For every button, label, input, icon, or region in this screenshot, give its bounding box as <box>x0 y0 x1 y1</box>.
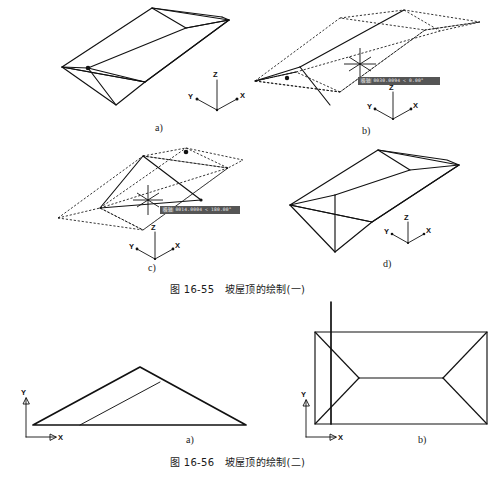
panel-d-label: d) <box>383 258 391 269</box>
panel-a-axis-x-label: X <box>240 91 245 100</box>
panel-a-axis-y-label: Y <box>188 92 193 101</box>
panel-2a-axes-icon: Y X <box>21 388 63 442</box>
panel-c-label: c) <box>148 262 156 273</box>
panel-b-axis-x-label: X <box>413 101 418 110</box>
panel-d-axes-icon: Z Y X <box>384 213 431 244</box>
panel-c-polar-tooltip: 极轴0014.0004 < 180.00° <box>160 206 240 214</box>
panel-2a-axis-x-label: X <box>58 433 63 442</box>
page-canvas: Z Y X <box>0 0 503 478</box>
panel-b-tooltip-tag: 极轴 <box>360 78 372 83</box>
panel-b-label: b) <box>362 125 370 136</box>
panel-2b-drawing: Y X <box>301 302 487 442</box>
panel-d-axis-z-label: Z <box>404 213 409 222</box>
panel-d-axis-y-label: Y <box>384 227 389 236</box>
figure-vector-layer: Z Y X <box>0 0 503 478</box>
panel-2b-label: b) <box>418 434 426 445</box>
panel-b-crosshair-cursor <box>344 48 376 80</box>
panel-2a-label: a) <box>186 434 194 445</box>
panel-a-label: a) <box>155 122 163 133</box>
panel-2a-axis-y-label: Y <box>21 388 26 397</box>
panel-b-polar-tooltip: 极轴0030.0094 < 0.00° <box>358 77 440 85</box>
panel-d-axis-x-label: X <box>426 226 431 235</box>
panel-c-axis-x-label: X <box>175 241 180 250</box>
panel-c-tooltip-text: 0014.0004 < 180.00° <box>175 207 231 212</box>
panel-2b-axis-x-label: X <box>338 433 343 442</box>
panel-c-vertex-dot-2 <box>199 198 202 201</box>
panel-d-drawing: Z Y X <box>290 150 459 252</box>
panel-c-vertex-dot <box>184 150 189 155</box>
panis-c-axis-y-label: Y <box>129 242 134 251</box>
panel-a-axis-z-label: Z <box>213 70 218 79</box>
panel-c-axis-z-label: Z <box>151 223 156 232</box>
panel-c-axes-icon: Z Y X <box>129 223 180 260</box>
panel-c-tooltip-tag: 极轴 <box>162 207 174 212</box>
panel-a-drawing: Z Y X <box>62 8 245 111</box>
panel-2a-drawing: Y X <box>21 367 246 442</box>
panel-2b-axis-y-label: Y <box>301 390 306 399</box>
panel-a-vertex-dot <box>86 66 91 71</box>
panel-c-drawing: Z Y X <box>58 148 243 260</box>
figure-16-55-caption: 图 16-55 坡屋顶的绘制(一) <box>170 281 305 296</box>
figure-16-56-caption: 图 16-56 坡屋顶的绘制(二) <box>170 454 305 469</box>
panel-a-axes-icon: Z Y X <box>188 70 245 111</box>
panel-b-axis-y-label: Y <box>367 102 372 111</box>
panel-b-vertex-dot <box>285 76 289 80</box>
panel-b-drawing: Z Y X <box>255 10 480 120</box>
panel-b-axes-icon: Z Y X <box>367 83 418 120</box>
panel-b-tooltip-text: 0030.0094 < 0.00° <box>373 78 423 83</box>
